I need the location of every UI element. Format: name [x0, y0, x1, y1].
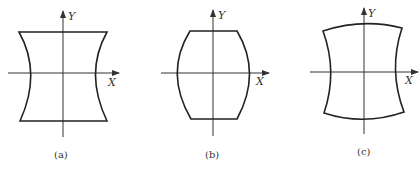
figure-a: Y X (a) [8, 10, 119, 160]
y-axis-label: Y [368, 7, 377, 20]
y-axis-label: Y [68, 10, 77, 23]
x-axis-label: X [107, 76, 117, 89]
figure-b: Y X (b) [161, 9, 269, 160]
figure-caption: (a) [54, 149, 68, 160]
x-axis-label: X [404, 74, 414, 87]
x-axis-label: X [255, 75, 265, 88]
figure-c: Y X (c) [310, 7, 418, 157]
figure-caption: (c) [357, 146, 371, 157]
figure-caption: (b) [205, 149, 219, 160]
distortion-diagram: Y X (a) Y X (b) Y X (c) [0, 0, 420, 170]
y-axis-label: Y [218, 9, 227, 22]
